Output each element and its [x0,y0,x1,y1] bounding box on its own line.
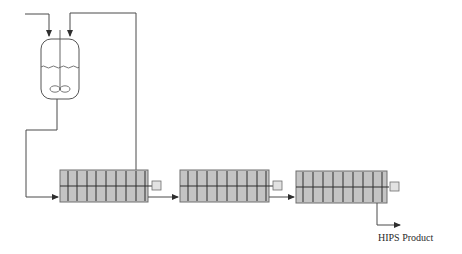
motor-icon [152,181,161,190]
vessel-outlet-stream [26,99,58,197]
reactor-2 [180,170,282,202]
motor-icon [273,181,282,190]
recycle-stream [70,13,136,170]
motor-icon [390,182,399,191]
reactor-3 [296,171,399,203]
product-label: HIPS Product [378,232,433,243]
feed-stream-1 [25,14,49,36]
agitated-tank-icon [41,30,79,99]
process-flow-diagram [0,0,462,254]
product-stream [377,203,400,225]
reactor-1 [60,170,161,202]
